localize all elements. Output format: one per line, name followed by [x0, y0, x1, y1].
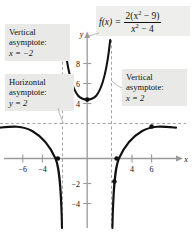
point-6-2p25 — [149, 124, 154, 129]
point-3p5--2p25 — [112, 179, 117, 184]
x-tick-label--4: −4 — [38, 165, 47, 174]
callout-line-2: asymptote: — [9, 87, 70, 97]
callout-line-2: asymptote: — [9, 37, 66, 47]
x-tick-label-4: 4 — [130, 165, 134, 174]
y-tick-label--4: −4 — [71, 200, 80, 209]
y-tick-label-4: 4 — [76, 100, 80, 109]
y-tick-label-6: 6 — [76, 80, 80, 89]
point-0-4p5 — [85, 97, 90, 102]
formula-function-name: f(x) — [99, 17, 112, 27]
formula-fraction: 2(x2 − 9) x2 − 4 — [124, 11, 162, 34]
y-axis-arrow — [84, 32, 90, 39]
function-formula: f(x) = 2(x2 − 9) x2 − 4 — [99, 8, 191, 36]
y-tick-label-8: 8 — [76, 60, 80, 69]
x-tick-label--6: −6 — [19, 165, 28, 174]
x-axis-label: x — [183, 155, 188, 164]
x-axis-arrow — [176, 156, 183, 162]
curve-branch-left — [0, 127, 62, 228]
x-tick-label-6: 6 — [150, 165, 154, 174]
callout-line-3: x = −2 — [9, 48, 66, 58]
y-tick-label--2: −2 — [71, 180, 80, 189]
callout-line-1: Horizontal — [9, 77, 70, 87]
callout-vertical-asymptote-right: Vertical asymptote: x = 2 — [122, 69, 187, 106]
callout-line-2: asymptote: — [126, 82, 183, 92]
y-axis-label: y — [79, 30, 84, 39]
point--3-0 — [56, 156, 61, 161]
fraction-bar — [124, 22, 162, 23]
callout-line-3: x = 2 — [126, 93, 183, 103]
callout-horizontal-asymptote: Horizontal asymptote: y = 2 — [5, 74, 74, 111]
callout-line-3: y = 2 — [9, 98, 70, 108]
curve-branch-right — [112, 127, 176, 228]
point-3-0 — [114, 156, 119, 161]
formula-denominator: x2 − 4 — [129, 24, 155, 34]
callout-line-1: Vertical — [126, 72, 183, 82]
callout-vertical-asymptote-left: Vertical asymptote: x = −2 — [5, 24, 70, 61]
rational-function-figure: −6 −4 4 6 8 6 4 −2 −4 x y f(x) = — [0, 0, 194, 237]
formula-numerator: 2(x2 − 9) — [124, 11, 162, 21]
callout-line-1: Vertical — [9, 27, 66, 37]
formula-equals: = — [115, 17, 120, 27]
